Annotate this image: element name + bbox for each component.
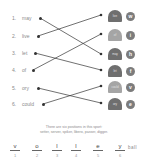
answer-letter: l	[51, 143, 63, 150]
answer-letter: y	[114, 143, 126, 150]
letter-circle-4: f	[126, 67, 135, 76]
word-item-4: 4.of	[12, 67, 26, 73]
answer-slot-1[interactable]: v1	[9, 143, 21, 158]
caption-line-2: setter, server, spiker, libero, passer, …	[0, 130, 148, 135]
connector-dot[interactable]	[37, 87, 40, 90]
answer-index: 5	[92, 153, 104, 158]
connector-dot[interactable]	[37, 35, 40, 38]
word-text: let	[22, 50, 27, 56]
tombstone-2: of	[108, 29, 122, 41]
answer-letter: e	[92, 143, 104, 150]
answer-letter: o	[31, 143, 43, 150]
answer-underline	[115, 150, 125, 151]
word-text: of	[22, 67, 26, 73]
tombstone-4: let	[108, 65, 122, 77]
answer-index: 1	[9, 153, 21, 158]
answer-underline	[52, 150, 62, 151]
word-number: 5.	[12, 85, 22, 91]
answer-index: 6	[114, 153, 126, 158]
word-text: live	[22, 33, 30, 39]
letter-circle-3: h	[126, 50, 135, 59]
answer-index: 4	[70, 153, 82, 158]
answer-index: 3	[51, 153, 63, 158]
matching-lines	[0, 0, 148, 164]
word-item-1: 1.may	[12, 15, 31, 21]
word-number: 4.	[12, 67, 22, 73]
answer-underline	[32, 150, 42, 151]
word-item-6: 6.could	[12, 101, 34, 107]
word-text: may	[22, 15, 31, 21]
word-item-5: 5.ory	[12, 85, 29, 91]
tombstone-6: ory	[108, 98, 122, 110]
answer-underline	[93, 150, 103, 151]
word-item-3: 3.let	[12, 50, 27, 56]
answer-letter: v	[9, 143, 21, 150]
connector-dot[interactable]	[39, 17, 42, 20]
tombstone-1: live	[108, 10, 122, 22]
connector-dot[interactable]	[34, 52, 37, 55]
word-text: ory	[22, 85, 29, 91]
answer-slot-4[interactable]: l4	[70, 143, 82, 158]
letter-circle-1: w	[126, 12, 135, 21]
word-number: 6.	[12, 101, 22, 107]
answer-slot-3[interactable]: l3	[51, 143, 63, 158]
answer-slot-5[interactable]: e5	[92, 143, 104, 158]
answer-letter: l	[70, 143, 82, 150]
word-text: could	[22, 101, 34, 107]
letter-circle-2: i	[126, 31, 135, 40]
answer-suffix: ball	[128, 145, 137, 150]
answer-slot-6[interactable]: y6	[114, 143, 126, 158]
connector-dot[interactable]	[42, 103, 45, 106]
word-number: 3.	[12, 50, 22, 56]
letter-circle-5: v	[126, 83, 135, 92]
answer-underline	[71, 150, 81, 151]
answer-underline	[10, 150, 20, 151]
answer-slot-2[interactable]: o2	[31, 143, 43, 158]
word-number: 2.	[12, 33, 22, 39]
answer-index: 2	[31, 153, 43, 158]
word-number: 1.	[12, 15, 22, 21]
caption-line-1: There are six positions in this sport:	[0, 125, 148, 130]
connector-dot[interactable]	[32, 69, 35, 72]
tombstone-5: could	[108, 81, 122, 93]
tombstone-3: may	[108, 48, 122, 60]
word-item-2: 2.live	[12, 33, 30, 39]
letter-circle-6: e	[126, 100, 135, 109]
